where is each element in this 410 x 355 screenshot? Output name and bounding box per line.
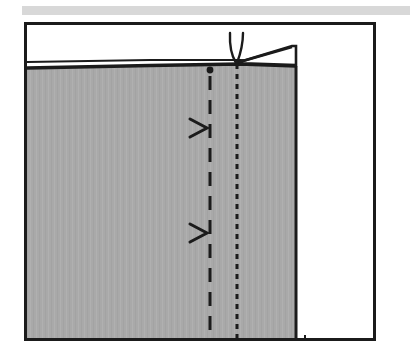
thread-strand-right — [237, 33, 243, 63]
fabric-panel — [27, 63, 296, 338]
screenshot-root: Sewing diagram: stitching a folded fabri… — [0, 0, 410, 355]
sewing-diagram-illustration — [0, 0, 410, 355]
thread-strand-left — [230, 33, 236, 63]
knot-start-dot — [207, 67, 214, 74]
